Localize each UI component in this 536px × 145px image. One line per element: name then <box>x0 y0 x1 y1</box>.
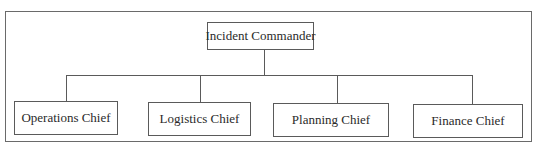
node-finance-chief: Finance Chief <box>413 104 523 138</box>
node-logistics-chief: Logistics Chief <box>148 102 251 136</box>
node-incident-commander: Incident Commander <box>207 22 314 50</box>
node-planning-chief: Planning Chief <box>273 103 389 137</box>
node-label: Operations Chief <box>21 110 110 126</box>
node-operations-chief: Operations Chief <box>14 101 118 135</box>
node-label: Logistics Chief <box>160 111 240 127</box>
node-label: Finance Chief <box>431 113 504 129</box>
connector-root-down <box>264 49 265 75</box>
node-label: Incident Commander <box>205 28 315 44</box>
connector-logistics <box>200 75 201 103</box>
node-label: Planning Chief <box>292 112 370 128</box>
connector-finance <box>472 75 473 105</box>
connector-operations <box>66 75 67 102</box>
connector-planning <box>337 75 338 104</box>
connector-bus <box>66 75 473 76</box>
